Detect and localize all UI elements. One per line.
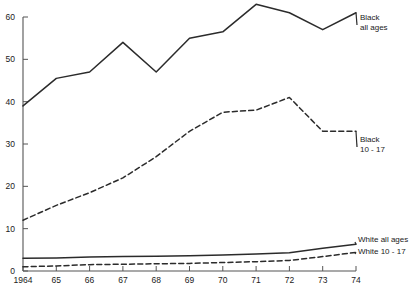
x-tick-label: 69 (185, 275, 195, 285)
y-tick-label: 50 (6, 54, 16, 64)
series-line-black-all-ages (23, 4, 356, 106)
x-tick-label: 70 (218, 275, 228, 285)
series-label-black-10-17: Black10 - 17 (360, 135, 385, 154)
series-leader-line (356, 131, 357, 147)
x-tick-label: 66 (85, 275, 95, 285)
y-tick-labels: 0102030405060 (6, 12, 16, 276)
x-tick-label: 67 (118, 275, 128, 285)
series-label-white-all-ages: White all ages (358, 235, 408, 244)
line-chart: 0102030405060 196465666768697071727374 B… (0, 0, 412, 287)
series-label-line: White all ages (358, 235, 408, 244)
chart-container: 0102030405060 196465666768697071727374 B… (0, 0, 412, 287)
series-label-black-all-ages: Blackall ages (360, 13, 388, 32)
series-label-line: 10 - 17 (360, 145, 385, 154)
x-tick-label: 1964 (14, 275, 33, 285)
series-leader-line (356, 13, 357, 25)
series-leader-line (355, 252, 356, 254)
y-tick-label: 20 (6, 181, 16, 191)
series-inline-labels: Blackall agesBlack10 - 17White all agesW… (355, 13, 408, 256)
series-label-line: White 10 - 17 (358, 247, 406, 256)
series-line-white-10-17 (23, 252, 356, 266)
x-tick-label: 65 (52, 275, 62, 285)
x-tick-marks (23, 266, 356, 271)
y-tick-label: 30 (6, 139, 16, 149)
y-tick-marks (23, 17, 28, 271)
series-label-line: Black (360, 135, 381, 144)
series-label-line: Black (360, 13, 381, 22)
x-tick-label: 74 (351, 275, 361, 285)
data-series-lines (23, 4, 356, 266)
y-tick-label: 60 (6, 12, 16, 22)
x-tick-label: 72 (285, 275, 295, 285)
x-tick-label: 73 (318, 275, 328, 285)
series-label-line: all ages (360, 23, 388, 32)
series-line-white-all-ages (23, 244, 356, 258)
x-tick-label: 71 (251, 275, 261, 285)
x-tick-label: 68 (151, 275, 161, 285)
series-line-black-10-17 (23, 97, 356, 220)
y-tick-label: 40 (6, 97, 16, 107)
y-tick-label: 10 (6, 224, 16, 234)
series-label-white-10-17: White 10 - 17 (358, 247, 406, 256)
x-tick-labels: 196465666768697071727374 (14, 275, 361, 285)
